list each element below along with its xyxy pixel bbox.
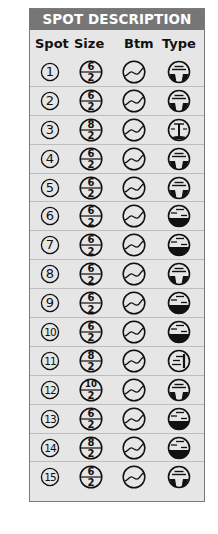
size-cell: 82 (70, 347, 112, 375)
column-header-btm: Btm (124, 36, 154, 51)
flat-bottom-dashes-icon (167, 233, 191, 257)
spot-row: 1482 (30, 434, 204, 463)
spot-number-cell: 9 (30, 289, 70, 317)
column-header-size: Size (74, 36, 104, 51)
size-min: 2 (79, 275, 103, 286)
spot-number-cell: 3 (30, 116, 70, 144)
type-cell (156, 58, 202, 86)
post-structure-icon (167, 118, 191, 142)
bottom-cell (112, 116, 156, 144)
circled-number-icon: 5 (40, 178, 60, 198)
bottom-cell (112, 58, 156, 86)
dropoff-lines-icon (167, 147, 191, 171)
size-max: 6 (79, 408, 103, 419)
wavy-bottom-icon (122, 204, 146, 228)
size-max: 6 (79, 61, 103, 72)
column-header-spot: Spot (35, 36, 69, 51)
dropoff-lines-icon (167, 176, 191, 200)
spot-row: 562 (30, 174, 204, 203)
bottom-cell (112, 462, 156, 491)
spot-rows: 1622623824625626627628629621062118212102… (30, 58, 204, 491)
spot-number: 5 (40, 178, 60, 198)
spot-number-cell: 1 (30, 58, 70, 86)
spot-number: 7 (40, 235, 60, 255)
size-min: 2 (79, 361, 103, 372)
spot-row: 382 (30, 116, 204, 145)
dropoff-lines-icon (167, 60, 191, 84)
size-fraction-icon: 62 (79, 407, 103, 431)
size-fraction-icon: 102 (79, 378, 103, 402)
size-min: 2 (79, 188, 103, 199)
type-cell (156, 434, 202, 462)
spot-row: 1062 (30, 318, 204, 347)
spot-number-cell: 7 (30, 231, 70, 259)
flat-bottom-dashes-icon (167, 291, 191, 315)
spot-row: 12102 (30, 376, 204, 405)
spot-row: 262 (30, 87, 204, 116)
size-cell: 82 (70, 116, 112, 144)
spot-number: 3 (40, 120, 60, 140)
spot-number: 8 (40, 264, 60, 284)
type-cell (156, 347, 202, 375)
size-cell: 62 (70, 145, 112, 173)
wavy-bottom-icon (122, 465, 146, 489)
size-min: 2 (79, 304, 103, 315)
wavy-bottom-icon (122, 176, 146, 200)
type-cell (156, 260, 202, 288)
size-cell: 62 (70, 405, 112, 433)
circled-number-icon: 14 (40, 438, 60, 458)
size-min: 2 (79, 130, 103, 141)
wavy-bottom-icon (122, 89, 146, 113)
spot-number: 13 (40, 409, 60, 429)
size-max: 6 (79, 148, 103, 159)
size-min: 2 (79, 477, 103, 488)
size-cell: 62 (70, 174, 112, 202)
circled-number-icon: 1 (40, 62, 60, 82)
bottom-cell (112, 231, 156, 259)
bottom-cell (112, 87, 156, 115)
panel-title: SPOT DESCRIPTION (30, 9, 204, 30)
size-fraction-icon: 62 (79, 320, 103, 344)
circled-number-icon: 13 (40, 409, 60, 429)
spot-number: 12 (40, 380, 60, 400)
size-fraction-icon: 82 (79, 436, 103, 460)
dropoff-lines-icon (167, 465, 191, 489)
bottom-cell (112, 145, 156, 173)
size-min: 2 (79, 390, 103, 401)
size-cell: 62 (70, 289, 112, 317)
spot-number-cell: 14 (30, 434, 70, 462)
bottom-cell (112, 347, 156, 375)
size-cell: 62 (70, 260, 112, 288)
spot-row: 662 (30, 202, 204, 231)
wall-icon (167, 349, 191, 373)
flat-bottom-dashes-icon (167, 436, 191, 460)
spot-row: 1562 (30, 462, 204, 491)
column-headers: Spot Size Btm Type (30, 36, 204, 56)
wavy-bottom-icon (122, 60, 146, 84)
size-cell: 62 (70, 231, 112, 259)
circled-number-icon: 12 (40, 380, 60, 400)
spot-row: 862 (30, 260, 204, 289)
wavy-bottom-icon (122, 378, 146, 402)
spot-row: 162 (30, 58, 204, 87)
size-max: 10 (79, 379, 103, 390)
size-max: 6 (79, 177, 103, 188)
bottom-cell (112, 202, 156, 230)
bottom-cell (112, 434, 156, 462)
type-cell (156, 405, 202, 433)
spot-number: 4 (40, 149, 60, 169)
size-min: 2 (79, 72, 103, 83)
dropoff-lines-icon (167, 262, 191, 286)
wavy-bottom-icon (122, 349, 146, 373)
circled-number-icon: 11 (40, 351, 60, 371)
bottom-cell (112, 289, 156, 317)
circled-number-icon: 3 (40, 120, 60, 140)
spot-number: 2 (40, 91, 60, 111)
size-cell: 62 (70, 58, 112, 86)
size-max: 6 (79, 321, 103, 332)
spot-number: 1 (40, 62, 60, 82)
wavy-bottom-icon (122, 320, 146, 344)
bottom-cell (112, 260, 156, 288)
wavy-bottom-icon (122, 436, 146, 460)
spot-row: 1182 (30, 347, 204, 376)
